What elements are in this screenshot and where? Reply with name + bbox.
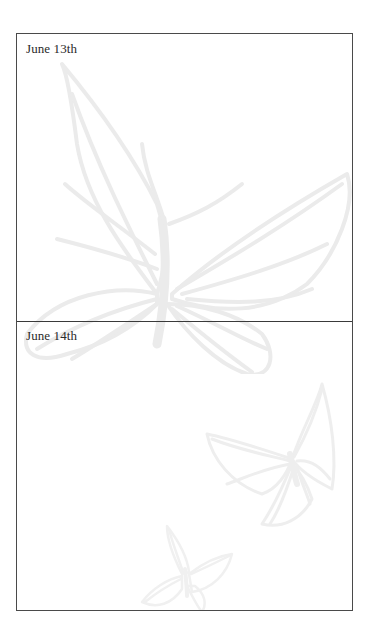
top-margin bbox=[0, 0, 374, 30]
journal-page-frame: June 13th June 14th bbox=[16, 33, 353, 611]
entry-section-june-14: June 14th bbox=[17, 321, 352, 610]
entry-date-label: June 14th bbox=[26, 328, 77, 344]
entry-section-june-13: June 13th bbox=[17, 34, 352, 321]
entry-date-label: June 13th bbox=[26, 41, 77, 57]
